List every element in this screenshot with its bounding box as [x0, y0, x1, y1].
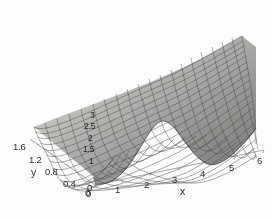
y-tick-1p2: 1.2: [29, 155, 42, 165]
x-tick-2: 2: [144, 180, 149, 190]
x-tick-5: 5: [229, 163, 234, 173]
x-axis-label: x: [180, 186, 185, 197]
y-tick-1p6: 1.6: [13, 142, 26, 152]
z-tick-2p5: 2.5: [84, 122, 95, 131]
z-tick-0: 0: [87, 183, 92, 193]
z-tick-2: 2: [88, 134, 93, 143]
x-tick-3: 3: [172, 175, 177, 185]
y-tick-0p8: 0.8: [45, 167, 58, 177]
surface-plot-figure: 0 1 2 3 4 5 6 x 0 0.4 0.8 1.2 1.6 y 3 2.…: [0, 0, 272, 219]
z-tick-1: 1: [89, 157, 94, 166]
z-tick-3: 3: [90, 111, 95, 120]
x-tick-6: 6: [257, 156, 262, 166]
z-tick-1p5: 1.5: [83, 145, 94, 154]
y-tick-0p4: 0.4: [63, 179, 76, 189]
x-tick-1: 1: [115, 185, 120, 195]
x-tick-4: 4: [200, 169, 205, 179]
y-axis-label: y: [31, 167, 36, 178]
surface-plot-canvas: [0, 0, 272, 219]
